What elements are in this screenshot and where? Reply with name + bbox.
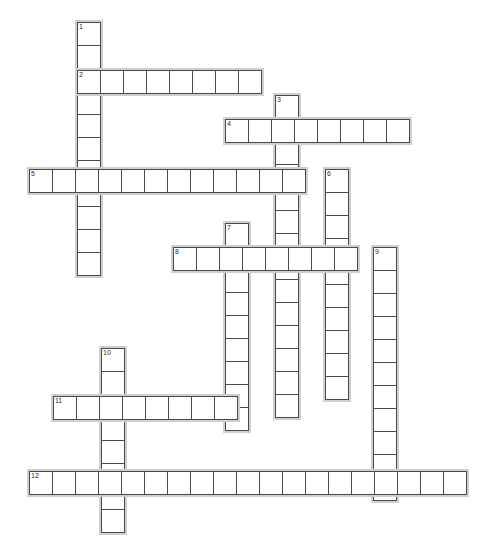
entry-11-across[interactable]: 11 xyxy=(51,394,240,422)
grid-cell[interactable] xyxy=(169,70,193,94)
grid-cell[interactable] xyxy=(75,471,99,495)
grid-cell[interactable] xyxy=(373,339,397,363)
grid-cell[interactable] xyxy=(373,431,397,455)
grid-cell[interactable] xyxy=(373,362,397,386)
grid-cell[interactable] xyxy=(190,471,214,495)
grid-cell[interactable] xyxy=(98,169,122,193)
grid-cell[interactable] xyxy=(325,215,349,239)
grid-cell[interactable] xyxy=(351,471,375,495)
entry-9-down[interactable]: 9 xyxy=(371,245,399,503)
grid-cell[interactable] xyxy=(77,206,101,230)
grid-cell[interactable] xyxy=(386,119,410,143)
grid-cell[interactable] xyxy=(275,371,299,395)
grid-cell[interactable] xyxy=(190,169,214,193)
grid-cell[interactable] xyxy=(192,70,216,94)
grid-cell[interactable] xyxy=(340,119,364,143)
grid-cell[interactable] xyxy=(215,70,239,94)
grid-cell[interactable] xyxy=(101,440,125,464)
grid-cell[interactable] xyxy=(259,471,283,495)
grid-cell[interactable]: 10 xyxy=(101,348,125,372)
entry-5-across[interactable]: 5 xyxy=(27,167,308,195)
entry-6-down[interactable]: 6 xyxy=(323,167,351,402)
entry-1-down[interactable]: 1 xyxy=(75,20,103,278)
grid-cell[interactable] xyxy=(325,376,349,400)
grid-cell[interactable]: 3 xyxy=(275,95,299,119)
grid-cell[interactable] xyxy=(225,338,249,362)
grid-cell[interactable] xyxy=(122,396,146,420)
grid-cell[interactable] xyxy=(275,325,299,349)
grid-cell[interactable] xyxy=(99,396,123,420)
grid-cell[interactable] xyxy=(167,471,191,495)
grid-cell[interactable] xyxy=(76,396,100,420)
grid-cell[interactable]: 4 xyxy=(225,119,249,143)
grid-cell[interactable] xyxy=(275,348,299,372)
grid-cell[interactable] xyxy=(52,169,76,193)
grid-cell[interactable] xyxy=(219,247,243,271)
grid-cell[interactable] xyxy=(100,70,124,94)
grid-cell[interactable] xyxy=(325,330,349,354)
grid-cell[interactable] xyxy=(334,247,358,271)
entry-10-down[interactable]: 10 xyxy=(99,346,127,535)
grid-cell[interactable] xyxy=(236,471,260,495)
grid-cell[interactable] xyxy=(77,45,101,69)
grid-cell[interactable] xyxy=(373,316,397,340)
grid-cell[interactable] xyxy=(282,471,306,495)
grid-cell[interactable] xyxy=(325,192,349,216)
grid-cell[interactable] xyxy=(145,396,169,420)
grid-cell[interactable] xyxy=(121,169,145,193)
grid-cell[interactable] xyxy=(123,70,147,94)
grid-cell[interactable] xyxy=(225,315,249,339)
grid-cell[interactable] xyxy=(311,247,335,271)
grid-cell[interactable]: 7 xyxy=(225,223,249,247)
grid-cell[interactable]: 1 xyxy=(77,22,101,46)
grid-cell[interactable] xyxy=(101,371,125,395)
grid-cell[interactable] xyxy=(373,385,397,409)
grid-cell[interactable] xyxy=(225,361,249,385)
grid-cell[interactable] xyxy=(77,114,101,138)
grid-cell[interactable] xyxy=(443,471,467,495)
grid-cell[interactable] xyxy=(373,408,397,432)
grid-cell[interactable] xyxy=(168,396,192,420)
grid-cell[interactable] xyxy=(238,70,262,94)
grid-cell[interactable] xyxy=(373,270,397,294)
grid-cell[interactable] xyxy=(275,210,299,234)
crossword-grid[interactable]: 123456789101112 xyxy=(0,0,492,550)
grid-cell[interactable] xyxy=(363,119,387,143)
grid-cell[interactable] xyxy=(282,169,306,193)
grid-cell[interactable] xyxy=(317,119,341,143)
grid-cell[interactable] xyxy=(52,471,76,495)
grid-cell[interactable] xyxy=(167,169,191,193)
grid-cell[interactable] xyxy=(144,169,168,193)
entry-2-across[interactable]: 2 xyxy=(75,68,264,96)
grid-cell[interactable] xyxy=(214,396,238,420)
grid-cell[interactable] xyxy=(288,247,312,271)
grid-cell[interactable] xyxy=(325,353,349,377)
grid-cell[interactable] xyxy=(373,293,397,317)
grid-cell[interactable] xyxy=(420,471,444,495)
entry-12-across[interactable]: 12 xyxy=(27,469,469,497)
grid-cell[interactable]: 8 xyxy=(173,247,197,271)
grid-cell[interactable]: 6 xyxy=(325,169,349,193)
entry-8-across[interactable]: 8 xyxy=(171,245,360,273)
grid-cell[interactable] xyxy=(325,284,349,308)
grid-cell[interactable]: 11 xyxy=(53,396,77,420)
grid-cell[interactable] xyxy=(196,247,220,271)
grid-cell[interactable] xyxy=(374,471,398,495)
grid-cell[interactable] xyxy=(236,169,260,193)
grid-cell[interactable] xyxy=(225,292,249,316)
grid-cell[interactable] xyxy=(259,169,283,193)
grid-cell[interactable] xyxy=(121,471,145,495)
grid-cell[interactable]: 12 xyxy=(29,471,53,495)
grid-cell[interactable] xyxy=(275,279,299,303)
grid-cell[interactable] xyxy=(248,119,272,143)
grid-cell[interactable] xyxy=(213,169,237,193)
grid-cell[interactable]: 9 xyxy=(373,247,397,271)
entry-4-across[interactable]: 4 xyxy=(223,117,412,145)
grid-cell[interactable] xyxy=(77,137,101,161)
grid-cell[interactable] xyxy=(77,252,101,276)
grid-cell[interactable] xyxy=(213,471,237,495)
grid-cell[interactable] xyxy=(77,229,101,253)
grid-cell[interactable] xyxy=(146,70,170,94)
grid-cell[interactable] xyxy=(275,394,299,418)
grid-cell[interactable] xyxy=(101,509,125,533)
